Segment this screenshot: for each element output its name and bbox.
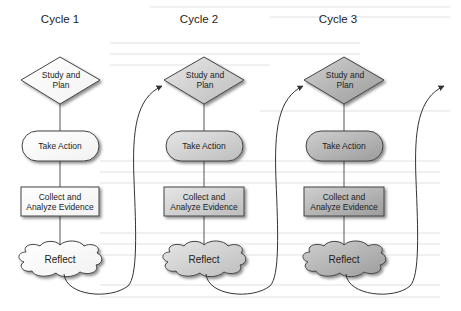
study-plan-line1: Study and — [326, 70, 364, 80]
study-plan-line2: Plan — [186, 80, 224, 90]
collect-line1: Collect and — [26, 192, 94, 202]
reflect-label: Reflect — [328, 255, 359, 265]
collect-analyze-label: Collect and Analyze Evidence — [26, 192, 94, 212]
study-plan-label: Study and Plan — [42, 70, 80, 90]
collect-line1: Collect and — [310, 192, 378, 202]
reflect-label: Reflect — [188, 255, 219, 265]
take-action-label: Take Action — [322, 141, 365, 151]
collect-line2: Analyze Evidence — [26, 202, 94, 212]
study-plan-line2: Plan — [42, 80, 80, 90]
collect-analyze-label: Collect and Analyze Evidence — [310, 192, 378, 212]
study-plan-line1: Study and — [42, 70, 80, 80]
cycle-3-heading: Cycle 3 — [319, 13, 357, 25]
take-action-label: Take Action — [38, 141, 81, 151]
take-action-label: Take Action — [182, 141, 225, 151]
collect-line2: Analyze Evidence — [170, 202, 238, 212]
collect-line2: Analyze Evidence — [310, 202, 378, 212]
study-plan-label: Study and Plan — [326, 70, 364, 90]
study-plan-line2: Plan — [326, 80, 364, 90]
study-plan-line1: Study and — [186, 70, 224, 80]
reflect-label: Reflect — [44, 255, 75, 265]
study-plan-label: Study and Plan — [186, 70, 224, 90]
cycle-1-heading: Cycle 1 — [41, 13, 79, 25]
cycle-2-heading: Cycle 2 — [180, 13, 218, 25]
collect-analyze-label: Collect and Analyze Evidence — [170, 192, 238, 212]
cycle-diagram: Cycle 1 Cycle 2 Cycle 3 Study and Plan T… — [0, 0, 461, 311]
collect-line1: Collect and — [170, 192, 238, 202]
